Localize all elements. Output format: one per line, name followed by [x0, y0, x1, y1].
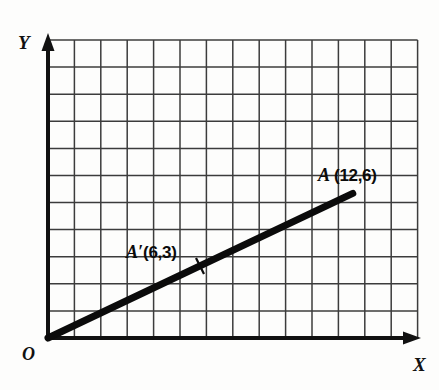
- x-axis-label: X: [413, 355, 426, 374]
- y-axis-arrowhead: [42, 33, 55, 51]
- point-name-a-prime: A′: [126, 242, 143, 262]
- point-label-a: A(12,6): [318, 166, 377, 184]
- point-coords-a-prime: (6,3): [143, 243, 176, 262]
- point-name-a: A: [318, 165, 330, 185]
- point-coords-a: (12,6): [334, 166, 377, 185]
- graph-canvas: [0, 0, 439, 390]
- coordinate-graph-figure: Y X O A(12,6) A′(6,3): [0, 0, 439, 390]
- y-axis: [42, 33, 55, 338]
- grid-lines: [48, 40, 418, 338]
- y-axis-label: Y: [18, 33, 30, 52]
- point-label-a-prime: A′(6,3): [126, 243, 177, 261]
- origin-label: O: [22, 345, 35, 363]
